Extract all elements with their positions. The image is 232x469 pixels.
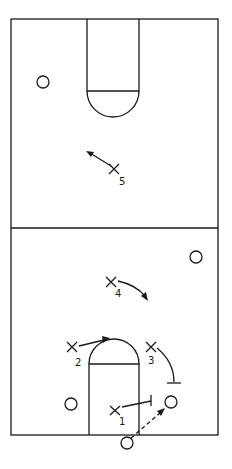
x-marker-icon	[110, 406, 120, 415]
offense-players: 5 4 2 3 1	[67, 151, 181, 438]
defender-circle	[37, 76, 49, 88]
player-label: 5	[119, 176, 125, 187]
basketball-court-diagram: 5 4 2 3 1	[0, 0, 232, 469]
bottom-free-throw-arc	[89, 339, 139, 364]
screen-path	[122, 401, 151, 407]
court-lines	[11, 19, 218, 435]
screen-path	[157, 348, 174, 382]
player-label: 3	[148, 355, 154, 366]
pass-line	[131, 408, 165, 438]
x-marker-icon	[146, 342, 156, 352]
player-1: 1	[110, 395, 151, 427]
defenders	[37, 76, 202, 449]
court-boundary	[11, 19, 218, 435]
player-label: 2	[75, 357, 81, 368]
top-key-lane	[87, 19, 139, 91]
defender-circle	[65, 398, 77, 410]
bottom-key-lane	[89, 364, 139, 435]
player-label: 4	[115, 288, 121, 299]
x-marker-icon	[106, 277, 116, 287]
player-label: 1	[119, 416, 125, 427]
x-marker-icon	[67, 342, 77, 352]
cut-arrow	[118, 281, 145, 296]
top-free-throw-arc	[87, 91, 139, 117]
defender-circle	[165, 396, 177, 408]
dashed-pass	[131, 413, 160, 438]
player-5: 5	[86, 151, 125, 187]
player-3: 3	[146, 342, 181, 383]
defender-circle	[121, 437, 133, 449]
cut-arrow	[90, 153, 111, 166]
defender-circle	[190, 251, 202, 263]
player-4: 4	[106, 277, 148, 301]
